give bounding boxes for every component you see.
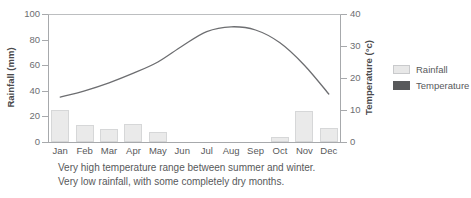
y-tick-label-left: 0 (12, 136, 40, 147)
y-tick-left (42, 142, 48, 143)
legend-label-temperature: Temperature (416, 80, 469, 91)
y-tick-label-right: 30 (350, 40, 361, 51)
y-tick-label-right: 20 (350, 72, 361, 83)
chart-legend: Rainfall Temperature (393, 62, 469, 94)
y-tick-label-right: 40 (350, 8, 361, 19)
temperature-line (48, 14, 341, 142)
y-tick-label-right: 10 (350, 104, 361, 115)
y-tick-right (341, 110, 347, 111)
temperature-curve-path (60, 27, 329, 97)
y-tick-label-left: 80 (12, 34, 40, 45)
legend-item-rainfall: Rainfall (393, 62, 469, 76)
caption-line-1: Very high temperature range between summ… (58, 161, 458, 175)
y-tick-right (341, 14, 347, 15)
x-axis-month-labels: JanFebMarAprMayJunJulAugSepOctNovDec (48, 145, 341, 159)
x-axis-line (48, 142, 342, 143)
rainfall-swatch-icon (393, 65, 410, 74)
month-label: Dec (314, 145, 344, 156)
y-tick-right (341, 46, 347, 47)
y-axis-left-title: Rainfall (mm) (5, 38, 16, 118)
y-tick-label-left: 100 (12, 8, 40, 19)
y-tick-label-left: 60 (12, 59, 40, 70)
legend-label-rainfall: Rainfall (416, 64, 448, 75)
chart-caption: Very high temperature range between summ… (58, 161, 458, 189)
caption-line-2: Very low rainfall, with some completely … (58, 175, 458, 189)
climate-chart-figure: Rainfall (mm) Temperature (°c) 020406080… (0, 0, 471, 198)
legend-item-temperature: Temperature (393, 78, 469, 92)
y-tick-label-right: 0 (350, 136, 355, 147)
y-axis-right-title: Temperature (°c) (363, 38, 374, 118)
y-tick-label-left: 40 (12, 85, 40, 96)
y-tick-label-left: 20 (12, 110, 40, 121)
y-tick-right (341, 78, 347, 79)
temperature-swatch-icon (393, 81, 410, 90)
y-tick-right (341, 142, 347, 143)
